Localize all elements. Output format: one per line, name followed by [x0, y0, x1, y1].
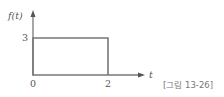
x-axis-label: t: [149, 69, 153, 80]
y-axis-label: f(t): [7, 10, 23, 21]
y-tick-3: 3: [22, 32, 28, 43]
x-tick-2: 2: [105, 78, 111, 89]
x-axis-arrow-icon: [138, 73, 145, 78]
y-axis-arrow-icon: [31, 10, 36, 17]
origin-label: 0: [30, 78, 36, 89]
function-plot-line: [33, 38, 108, 75]
figure-caption: [그림 13-26]: [163, 80, 213, 90]
figure-13-26: f(t) t 3 0 2 [그림 13-26]: [0, 0, 224, 97]
